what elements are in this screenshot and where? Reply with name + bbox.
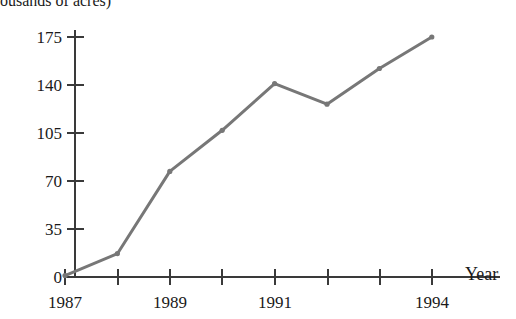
data-point-1987 (62, 273, 67, 278)
x-tick-label-1994: 1994 (402, 294, 462, 311)
y-tick-label-0: 0 (16, 269, 62, 286)
plot-area (0, 0, 516, 319)
y-tick-label-35: 35 (16, 221, 62, 238)
x-tick-label-1989: 1989 (140, 294, 200, 311)
y-tick-label-140: 140 (16, 77, 62, 94)
data-point-1993 (377, 66, 382, 71)
x-tick-label-1987: 1987 (35, 294, 95, 311)
data-point-1988 (115, 251, 120, 256)
data-point-1992 (324, 102, 329, 107)
y-tick-label-70: 70 (16, 173, 62, 190)
y-tick-label-105: 105 (16, 125, 62, 142)
data-point-1989 (167, 169, 172, 174)
x-axis-title: Year (465, 265, 498, 283)
data-point-1994 (429, 34, 434, 39)
x-tick-label-1991: 1991 (245, 294, 305, 311)
data-series-line (65, 37, 432, 276)
data-point-1991 (272, 81, 277, 86)
chart-figure: ousands of acres) (0, 0, 516, 319)
data-point-1990 (220, 128, 225, 133)
data-point-markers (62, 34, 434, 278)
y-tick-label-175: 175 (16, 29, 62, 46)
